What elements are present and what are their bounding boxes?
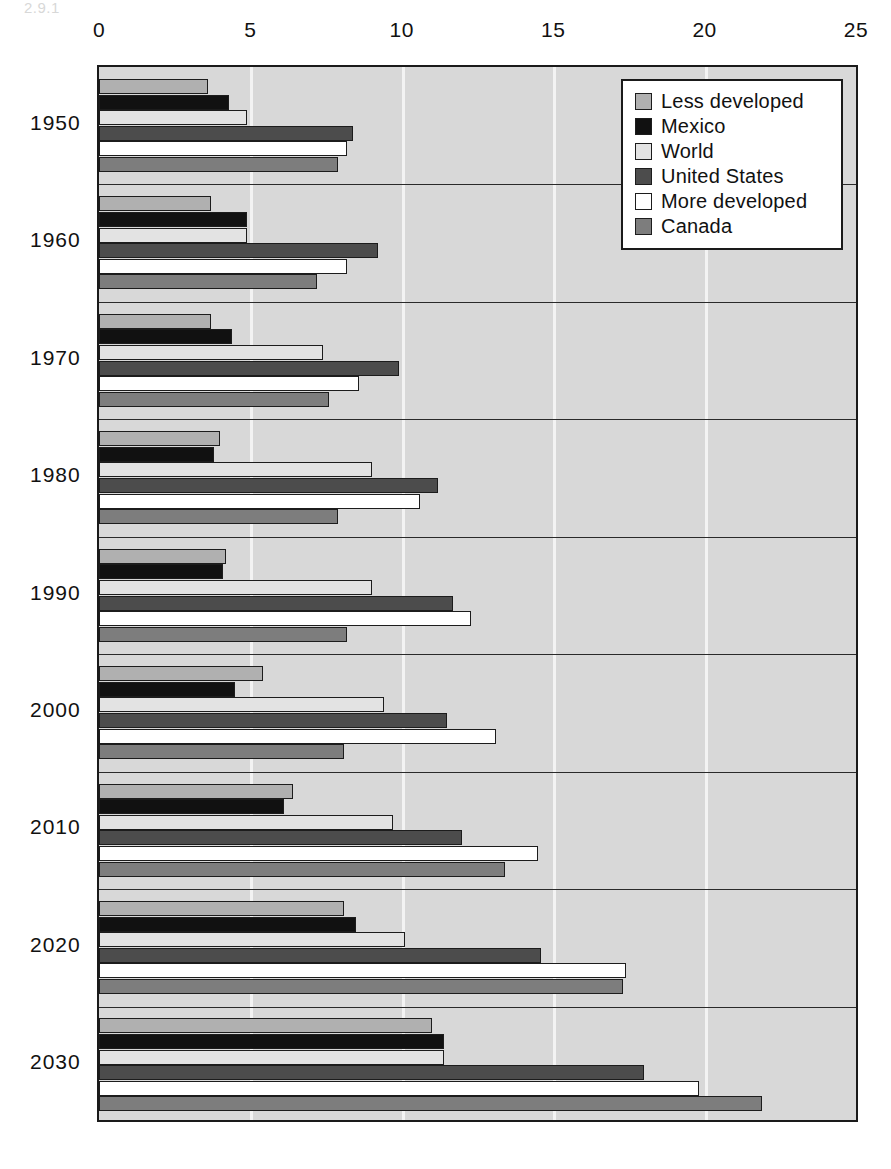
bar-1970-canada [99, 392, 329, 407]
bar-2020-world [99, 932, 405, 947]
group-separator [99, 772, 856, 773]
group-separator [99, 1007, 856, 1008]
y-tick-label-1960: 1960 [30, 228, 81, 252]
x-tick-label: 20 [692, 18, 716, 42]
bar-1950-canada [99, 157, 338, 172]
y-tick-label-1980: 1980 [30, 463, 81, 487]
bar-1950-mexico [99, 95, 229, 110]
bar-1970-mexico [99, 329, 232, 344]
bar-2000-more-developed [99, 729, 496, 744]
legend-item[interactable]: United States [635, 164, 831, 189]
population-age-bar-chart: 0510152025 19501960197019801990200020102… [0, 0, 891, 1169]
bar-1950-world [99, 110, 247, 125]
legend-item[interactable]: World [635, 139, 831, 164]
bar-1990-canada [99, 627, 347, 642]
bar-1980-canada [99, 509, 338, 524]
bar-2020-more-developed [99, 963, 626, 978]
bar-1960-united-states [99, 243, 378, 258]
legend-label: World [661, 140, 714, 163]
y-tick-label-1950: 1950 [30, 111, 81, 135]
bar-1950-united-states [99, 126, 353, 141]
bar-2000-less-developed [99, 666, 263, 681]
bar-2020-united-states [99, 948, 541, 963]
bar-1950-less-developed [99, 79, 208, 94]
legend-label: More developed [661, 190, 807, 213]
y-tick-label-1990: 1990 [30, 581, 81, 605]
y-tick-label-1970: 1970 [30, 346, 81, 370]
bar-2010-less-developed [99, 784, 293, 799]
bar-1960-mexico [99, 212, 247, 227]
bar-1980-world [99, 462, 372, 477]
x-tick-label: 0 [93, 18, 105, 42]
bar-2030-canada [99, 1096, 762, 1111]
bar-1980-united-states [99, 478, 438, 493]
bar-1990-world [99, 580, 372, 595]
legend-item[interactable]: Canada [635, 214, 831, 239]
bar-2010-united-states [99, 830, 462, 845]
bar-1970-united-states [99, 361, 399, 376]
bar-1990-mexico [99, 564, 223, 579]
x-tick-label: 25 [844, 18, 868, 42]
legend-item[interactable]: More developed [635, 189, 831, 214]
gridline-15 [553, 67, 556, 1120]
legend-label: Canada [661, 215, 732, 238]
legend: Less developedMexicoWorldUnited StatesMo… [621, 79, 843, 250]
bar-2030-mexico [99, 1034, 444, 1049]
group-separator [99, 537, 856, 538]
bar-1950-more-developed [99, 141, 347, 156]
legend-swatch-icon [635, 118, 652, 135]
bar-2000-mexico [99, 682, 235, 697]
bar-2010-world [99, 815, 393, 830]
y-tick-label-2020: 2020 [30, 933, 81, 957]
legend-item[interactable]: Less developed [635, 89, 831, 114]
group-separator [99, 302, 856, 303]
bar-2020-canada [99, 979, 623, 994]
bar-1970-world [99, 345, 323, 360]
legend-swatch-icon [635, 168, 652, 185]
y-tick-label-2010: 2010 [30, 815, 81, 839]
x-tick-label: 15 [541, 18, 565, 42]
bar-1970-less-developed [99, 314, 211, 329]
bar-1960-world [99, 228, 247, 243]
legend-swatch-icon [635, 218, 652, 235]
bar-1980-more-developed [99, 494, 420, 509]
group-separator [99, 654, 856, 655]
group-separator [99, 419, 856, 420]
legend-swatch-icon [635, 93, 652, 110]
bar-1960-less-developed [99, 196, 211, 211]
x-tick-label: 10 [390, 18, 414, 42]
group-separator [99, 889, 856, 890]
bar-2030-less-developed [99, 1018, 432, 1033]
bar-2000-canada [99, 744, 344, 759]
bar-1970-more-developed [99, 376, 359, 391]
bar-1980-mexico [99, 447, 214, 462]
bar-2030-world [99, 1050, 444, 1065]
bar-2030-more-developed [99, 1081, 699, 1096]
y-tick-label-2030: 2030 [30, 1050, 81, 1074]
bar-1960-canada [99, 274, 317, 289]
bar-1980-less-developed [99, 431, 220, 446]
legend-label: United States [661, 165, 784, 188]
bar-2010-more-developed [99, 846, 538, 861]
bar-1960-more-developed [99, 259, 347, 274]
x-tick-label: 5 [244, 18, 256, 42]
bar-2020-mexico [99, 917, 356, 932]
bar-2010-mexico [99, 799, 284, 814]
legend-swatch-icon [635, 143, 652, 160]
bar-1990-united-states [99, 596, 453, 611]
bar-2000-united-states [99, 713, 447, 728]
bar-2030-united-states [99, 1065, 644, 1080]
legend-label: Less developed [661, 90, 804, 113]
legend-swatch-icon [635, 193, 652, 210]
bar-1990-less-developed [99, 549, 226, 564]
bar-2000-world [99, 697, 384, 712]
bar-2010-canada [99, 862, 505, 877]
legend-item[interactable]: Mexico [635, 114, 831, 139]
bar-1990-more-developed [99, 611, 471, 626]
legend-label: Mexico [661, 115, 726, 138]
bar-2020-less-developed [99, 901, 344, 916]
y-tick-label-2000: 2000 [30, 698, 81, 722]
